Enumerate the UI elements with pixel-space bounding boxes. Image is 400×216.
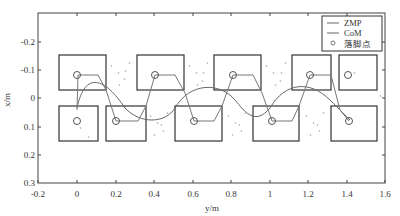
footstep-plot: -0.2 0 0.2 0.4 0.6 0.8 1 1.2 1.4 1.6 y/m… <box>0 0 400 216</box>
y-tick-label: -0.2 <box>21 37 35 47</box>
footstep-markers <box>74 72 353 125</box>
y-tick-label: 0 <box>31 93 36 103</box>
x-tick-label: 0.8 <box>225 189 237 199</box>
x-tick-label: 1 <box>268 189 273 199</box>
x-tick-label: 0 <box>75 189 80 199</box>
legend: ZMP CoM 落脚点 <box>322 16 382 51</box>
y-tick-label: 0.3 <box>24 178 36 188</box>
legend-zmp: ZMP <box>344 18 362 28</box>
x-tick-label: 0.2 <box>110 189 121 199</box>
x-tick-label: 1.2 <box>302 189 313 199</box>
y-axis-label: x/m <box>2 93 12 107</box>
x-tick-label: 0.4 <box>148 189 160 199</box>
com-curve <box>77 82 350 120</box>
x-tick-label: 1.6 <box>379 189 391 199</box>
y-tick-label: 0.2 <box>24 150 35 160</box>
x-tick-label: -0.2 <box>31 189 45 199</box>
swing-trajectory-dashes <box>80 62 381 138</box>
y-tick-label: -0.1 <box>21 65 35 75</box>
x-tick-label: 1.4 <box>341 189 353 199</box>
x-axis-label: y/m <box>205 203 219 213</box>
y-tick-label: 0.1 <box>24 122 35 132</box>
foot-outlines <box>59 55 377 141</box>
x-tick-label: 0.6 <box>187 189 199 199</box>
legend-footstep: 落脚点 <box>344 39 371 49</box>
y-axis <box>38 42 385 155</box>
legend-com: CoM <box>344 28 362 38</box>
